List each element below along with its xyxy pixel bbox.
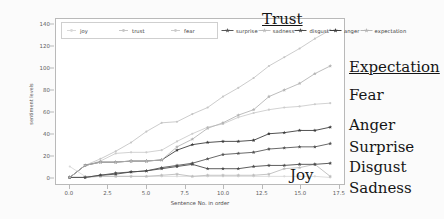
point-marker-icon [117, 27, 130, 34]
series-marker-joy [268, 175, 270, 177]
legend-item-sadness[interactable]: sadness [258, 26, 295, 35]
legend-item-surprise[interactable]: surprise [221, 26, 258, 35]
series-canvas [56, 19, 344, 184]
series-marker-sadness [175, 172, 179, 176]
series-trust [69, 29, 332, 179]
y-tick-mark [50, 89, 54, 90]
inplot-label-joy: Joy [290, 168, 314, 183]
series-marker-disgust [221, 167, 225, 171]
series-marker-surprise [313, 145, 317, 149]
legend-item-trust[interactable]: trust [117, 26, 169, 35]
series-marker-fear [191, 133, 193, 135]
series-marker-surprise [328, 142, 332, 146]
star-marker-icon [221, 27, 234, 34]
series-marker-joy [283, 175, 285, 177]
y-tick-label: 20 [43, 153, 50, 159]
series-marker-trust [207, 106, 209, 108]
series-marker-expectation [129, 159, 133, 163]
chart-legend: joytrustfearsurprisesadnessdisgustangere… [61, 22, 218, 39]
series-marker-fear [298, 105, 300, 107]
x-tick-label: 5.0 [142, 190, 151, 196]
series-marker-surprise [206, 157, 210, 161]
series-marker-anger [190, 143, 194, 147]
y-tick-mark [50, 67, 54, 68]
series-marker-anger [267, 132, 271, 136]
series-marker-fear [283, 106, 285, 108]
series-marker-fear [237, 116, 239, 118]
legend-item-joy[interactable]: joy [65, 26, 117, 35]
point-marker-icon [169, 27, 182, 34]
x-tick-mark [339, 185, 340, 189]
series-marker-trust [268, 65, 270, 67]
y-tick-label: 140 [39, 21, 50, 27]
star-marker-icon [329, 27, 342, 34]
x-tick-mark [223, 185, 224, 189]
series-marker-fear [115, 152, 117, 154]
y-tick-mark [50, 112, 54, 113]
series-marker-trust [99, 158, 101, 160]
y-tick-label: 120 [39, 43, 50, 49]
y-tick-mark [50, 134, 54, 135]
x-axis-title: Sentence No. in order [55, 200, 345, 206]
y-tick-label: 80 [43, 87, 50, 93]
x-tick-label: 10.0 [217, 190, 229, 196]
series-marker-trust [145, 130, 147, 132]
series-marker-expectation [298, 81, 302, 85]
series-marker-trust [283, 56, 285, 58]
series-marker-fear [176, 140, 178, 142]
series-marker-fear [253, 112, 255, 114]
series-marker-sadness [282, 167, 286, 171]
x-tick-mark [185, 185, 186, 189]
series-marker-disgust [328, 161, 332, 165]
series-marker-anger [206, 140, 210, 144]
x-tick-mark [300, 185, 301, 189]
legend-label: fear [184, 28, 195, 34]
x-tick-mark [262, 185, 263, 189]
series-marker-trust [298, 47, 300, 49]
y-axis-title: sentiment levels [28, 64, 34, 144]
series-marker-anger [313, 128, 317, 132]
legend-label: disgust [309, 28, 328, 34]
legend-label: sadness [273, 28, 295, 34]
x-tick-mark [146, 185, 147, 189]
series-marker-disgust [267, 163, 271, 167]
series-marker-joy [314, 175, 316, 177]
series-marker-trust [161, 122, 163, 124]
y-tick-mark [50, 178, 54, 179]
y-tick-mark [50, 23, 54, 24]
series-marker-fear [329, 102, 331, 104]
series-marker-expectation [282, 88, 286, 92]
series-marker-anger [298, 128, 302, 132]
star-marker-icon [258, 27, 271, 34]
series-marker-trust [115, 150, 117, 152]
series-marker-fear [130, 151, 132, 153]
series-marker-trust [130, 141, 132, 143]
series-marker-anger [221, 139, 225, 143]
series-marker-fear [161, 149, 163, 151]
series-marker-disgust [282, 163, 286, 167]
series-marker-surprise [236, 151, 240, 155]
star-marker-icon [294, 27, 307, 34]
series-marker-expectation [114, 160, 118, 164]
series-marker-disgust [236, 167, 240, 171]
legend-label: joy [80, 28, 88, 34]
series-marker-anger [236, 139, 240, 143]
legend-item-fear[interactable]: fear [169, 26, 221, 35]
annotation-disgust: Disgust [349, 160, 407, 175]
series-marker-disgust [129, 170, 133, 174]
x-tick-mark [107, 185, 108, 189]
annotation-sadness: Sadness [349, 181, 412, 196]
series-expectation [68, 64, 332, 179]
series-marker-surprise [267, 147, 271, 151]
series-marker-trust [191, 113, 193, 115]
series-marker-disgust [206, 167, 210, 171]
annotation-fear: Fear [349, 88, 384, 103]
series-marker-surprise [252, 150, 256, 154]
series-marker-expectation [144, 159, 148, 163]
chart-figure: 020406080100120140 sentiment levels Trus… [0, 0, 444, 219]
series-marker-anger [282, 131, 286, 135]
series-marker-fear [268, 109, 270, 111]
legend-item-disgust[interactable]: disgust [294, 26, 328, 35]
series-marker-surprise [221, 153, 225, 157]
annotation-anger: Anger [349, 118, 395, 133]
